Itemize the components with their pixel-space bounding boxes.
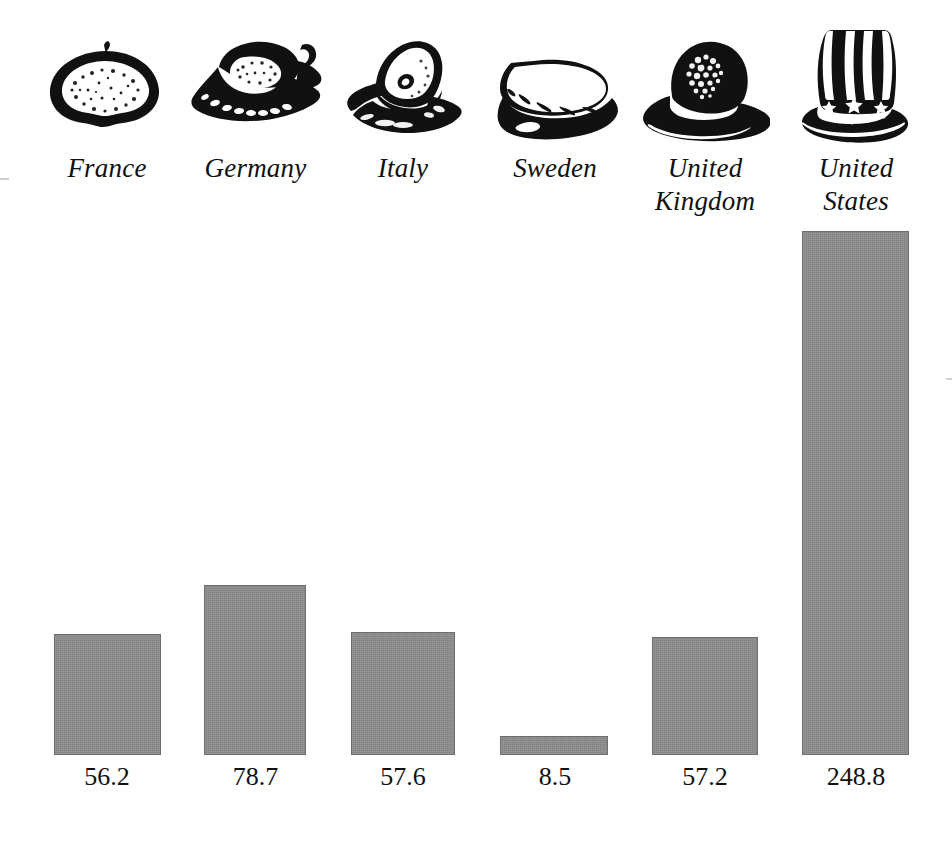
value-label-france: 56.2 [22,762,192,792]
value-label-germany: 78.7 [173,762,338,792]
bar-united-states [802,231,909,755]
country-label-france: France [22,152,192,185]
bowler-hat-icon [630,28,780,145]
tyrolean-hat-icon [173,25,338,145]
fedora-hat-icon [328,25,478,145]
bar-united-kingdom [652,637,758,755]
bar-france [54,634,161,755]
country-label-germany: Germany [173,152,338,185]
bar-italy [351,632,455,755]
value-label-united-states: 248.8 [786,762,926,792]
country-label-united-states: United States [786,152,926,218]
country-label-sweden: Sweden [474,152,636,185]
bar-chart-figure: France 56.2 [0,0,952,847]
value-label-italy: 57.6 [328,762,478,792]
bar-sweden [500,736,608,755]
uncle-sam-top-hat-icon [786,18,926,145]
chart-column-sweden: Sweden 8.5 [474,0,636,847]
country-label-united-kingdom: United Kingdom [630,152,780,218]
country-label-italy: Italy [328,152,478,185]
scan-edge-mark-bottom [946,378,952,380]
scan-edge-mark-top [0,178,9,180]
student-cap-icon [474,30,636,145]
beret-hat-icon [22,30,192,145]
value-label-united-kingdom: 57.2 [630,762,780,792]
value-label-sweden: 8.5 [474,762,636,792]
bar-germany [204,585,306,755]
